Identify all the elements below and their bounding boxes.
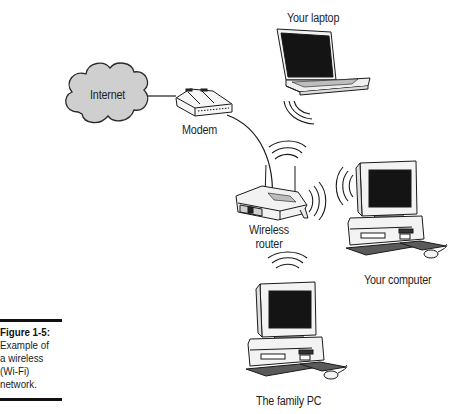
- figure-number: Figure 1-5:: [0, 326, 53, 339]
- wifi-signal-icon: [268, 252, 307, 268]
- modem-label: Modem: [182, 123, 217, 137]
- figure-description: Example of a wireless (Wi-Fi) network.: [0, 339, 53, 391]
- internet-label: Internet: [90, 88, 125, 102]
- wifi-signal-icon: [269, 141, 306, 159]
- wifi-signal-icon: [336, 167, 353, 205]
- figure-caption: Figure 1-5: Example of a wireless (Wi-Fi…: [0, 319, 62, 401]
- caption-top-rule: [0, 319, 62, 322]
- network-diagram: [0, 0, 462, 414]
- router-label-line2: router: [230, 237, 307, 251]
- your-computer-label: Your computer: [364, 273, 432, 287]
- desktop-computer-icon: [346, 161, 447, 258]
- laptop-icon: [277, 29, 370, 95]
- wireless-router-icon: [236, 165, 308, 220]
- laptop-label: Your laptop: [287, 11, 339, 25]
- modem-icon: [176, 89, 232, 116]
- desktop-computer-icon: [246, 282, 347, 379]
- caption-bottom-rule: [0, 398, 62, 401]
- wifi-signal-icon: [309, 182, 326, 220]
- wifi-signal-icon: [284, 101, 314, 124]
- family-pc-label: The family PC: [256, 394, 321, 408]
- router-label-line1: Wireless: [230, 223, 307, 237]
